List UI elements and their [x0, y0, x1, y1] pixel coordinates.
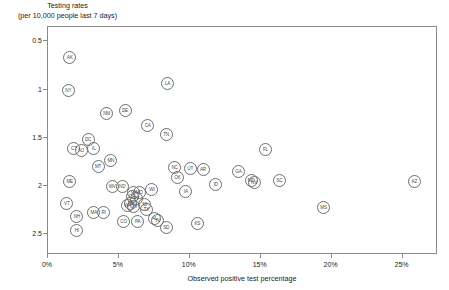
x-axis-tick-label: 15%	[253, 261, 267, 268]
data-point-ga: GA	[232, 165, 245, 178]
y-axis-tick-label: 2.5	[14, 229, 42, 236]
data-point-ar: AR	[197, 163, 210, 176]
data-point-ny: NY	[62, 84, 75, 97]
data-point-vt: VT	[60, 197, 73, 210]
data-point-wi: WI	[145, 183, 158, 196]
data-point-hi: HI	[70, 224, 83, 237]
x-axis-tick-mark	[118, 254, 119, 258]
data-point-ak: AK	[63, 51, 76, 64]
y-axis-tick-label: 2	[14, 181, 42, 188]
scatter-plot-figure: Testing rates (per 10,000 people last 7 …	[0, 0, 449, 290]
data-point-pa: PA	[131, 215, 144, 228]
data-point-az: AZ	[408, 175, 421, 188]
x-axis-tick-mark	[47, 254, 48, 258]
data-point-co: CO	[117, 215, 130, 228]
data-point-nh: NH	[70, 210, 83, 223]
data-point-ri: RI	[97, 206, 110, 219]
x-axis-tick-mark	[189, 254, 190, 258]
chart-title-line-1: Testing rates	[0, 1, 135, 11]
x-axis-tick-label: 20%	[324, 261, 338, 268]
data-point-mt: MT	[92, 160, 105, 173]
data-point-ms: MS	[317, 201, 330, 214]
data-point-sd: SD	[160, 221, 173, 234]
data-point-id: ID	[209, 178, 222, 191]
data-point-ks: KS	[191, 217, 204, 230]
data-point-fl: FL	[259, 143, 272, 156]
data-point-nm: NM	[100, 107, 113, 120]
data-point-mn: MN	[104, 154, 117, 167]
data-point-nv: NV	[248, 176, 261, 189]
x-axis-tick-label: 10%	[182, 261, 196, 268]
data-point-me: ME	[63, 175, 76, 188]
chart-title-line-2: (per 10,000 people last 7 days)	[0, 11, 135, 21]
x-axis-tick-mark	[331, 254, 332, 258]
x-axis-tick-mark	[260, 254, 261, 258]
data-point-ia: IA	[179, 185, 192, 198]
data-point-ok: OK	[171, 171, 184, 184]
data-point-sc: SC	[273, 174, 286, 187]
y-axis-tick-label: 1.5	[14, 133, 42, 140]
plot-area: AKNYLANMDECATNDCCTNJILMNMTNCUTAROKMEWVND…	[47, 26, 437, 254]
data-point-de: DE	[119, 104, 132, 117]
x-axis-tick-mark	[402, 254, 403, 258]
x-axis-tick-label: 5%	[113, 261, 123, 268]
x-axis-tick-label: 25%	[395, 261, 409, 268]
data-point-ca: CA	[141, 119, 154, 132]
data-point-nj: NJ	[75, 144, 88, 157]
x-axis-title: Observed positive test percentage	[187, 274, 296, 283]
data-point-tn: TN	[160, 128, 173, 141]
chart-title: Testing rates (per 10,000 people last 7 …	[0, 1, 135, 21]
y-axis-tick-label: 0.5	[14, 37, 42, 44]
data-point-ut: UT	[184, 162, 197, 175]
x-axis-tick-label: 0%	[42, 261, 52, 268]
data-point-la: LA	[161, 77, 174, 90]
y-axis-tick-label: 1	[14, 85, 42, 92]
data-point-il: IL	[87, 142, 100, 155]
